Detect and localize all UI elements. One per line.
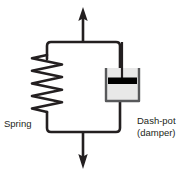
frame-bottom-bar bbox=[47, 101, 120, 132]
dashpot-label-line2: (damper) bbox=[137, 127, 176, 138]
dashpot-label-line1: Dash-pot bbox=[137, 115, 176, 126]
dashpot-icon bbox=[106, 42, 139, 101]
diagram-canvas: Spring Dash-pot (damper) bbox=[0, 0, 181, 176]
arrow-up-icon bbox=[78, 7, 87, 42]
piston-bar-icon bbox=[108, 78, 137, 85]
arrow-down-icon bbox=[78, 132, 87, 169]
spring-coil-icon bbox=[32, 55, 62, 112]
mechanical-model-diagram: Spring Dash-pot (damper) bbox=[0, 0, 181, 176]
spring-label: Spring bbox=[4, 118, 31, 129]
